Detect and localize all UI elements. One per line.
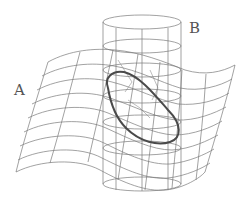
cylinder-b-mesh [103, 15, 181, 191]
surface-cylinder-intersection-diagram: A B [0, 0, 246, 202]
surface-label-a: A [14, 81, 25, 99]
diagram-canvas [0, 0, 246, 202]
surface-a-mesh [16, 49, 235, 190]
cylinder-label-b: B [189, 19, 200, 37]
